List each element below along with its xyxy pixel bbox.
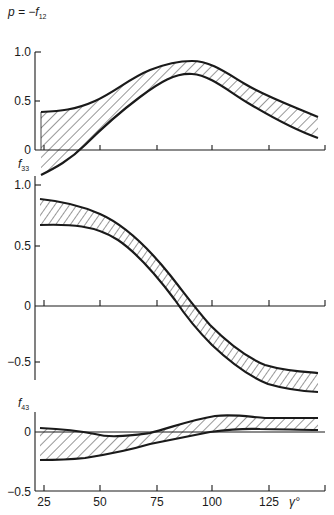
panel-f33: f33 1.0 0.5 0 −0.5 <box>7 157 325 392</box>
x-tick-50: 50 <box>93 495 107 509</box>
f43-tick-0: 0 <box>24 425 31 439</box>
x-axis-unit-gamma: γ° <box>289 495 300 509</box>
x-tick-100: 100 <box>202 495 222 509</box>
f43-ylabel: f43 <box>18 396 29 411</box>
f33-band <box>40 199 318 392</box>
panel-f43: f43 0 −0.5 25 50 75 100 125 γ° <box>7 396 325 509</box>
x-tick-25: 25 <box>37 495 51 509</box>
figure: p = −f12 1.0 0.5 0 f33 1.0 0.5 0 −0 <box>0 0 334 515</box>
f33-ylabel: f33 <box>18 157 29 172</box>
x-tick-125: 125 <box>259 495 279 509</box>
f12-tick-0: 0 <box>24 143 31 157</box>
x-tick-75: 75 <box>150 495 164 509</box>
f33-tick-0.5: 0.5 <box>14 239 31 253</box>
f33-tick-0: 0 <box>24 299 31 313</box>
f12-x-ticks <box>44 145 325 150</box>
f12-tick-1.0: 1.0 <box>14 45 31 59</box>
panel-f12: p = −f12 1.0 0.5 0 <box>7 5 325 175</box>
f12-ylabel: p = −f12 <box>7 5 47 20</box>
f33-tick-neg0.5: −0.5 <box>7 355 31 369</box>
f12-tick-0.5: 0.5 <box>14 94 31 108</box>
f33-tick-1.0: 1.0 <box>14 178 31 192</box>
f43-tick-neg0.5: −0.5 <box>7 485 31 499</box>
f43-x-ticks <box>44 485 325 491</box>
